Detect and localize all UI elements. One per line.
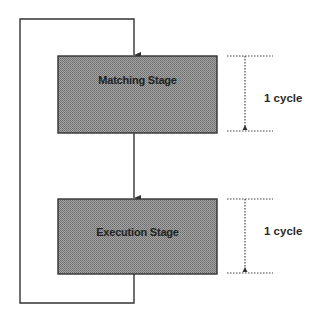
execution-cycle-label: 1 cycle (264, 225, 302, 237)
matching-dimension-arrowhead (243, 125, 248, 130)
matching-stage-box (58, 56, 217, 133)
matching-stage-label: Matching Stage (58, 74, 217, 86)
execution-stage-label: Execution Stage (58, 226, 217, 238)
execution-dimension-arrowhead (243, 267, 248, 272)
matching-cycle-label: 1 cycle (264, 92, 302, 104)
pipeline-diagram (0, 0, 324, 324)
